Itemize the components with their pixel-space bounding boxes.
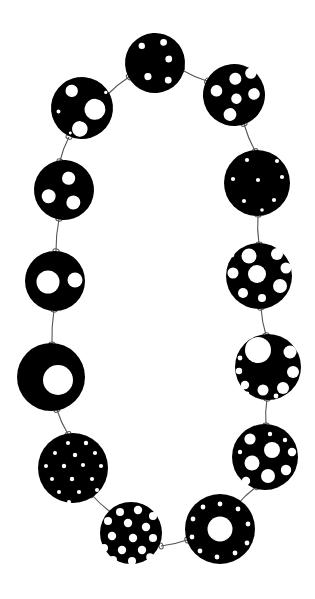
disc-hole bbox=[70, 477, 74, 481]
disc-hole bbox=[228, 268, 239, 279]
disc-hole bbox=[258, 385, 269, 396]
necklace-disc bbox=[226, 243, 292, 309]
disc-hole bbox=[116, 508, 124, 516]
disc-hole bbox=[231, 177, 235, 181]
disc-hole bbox=[218, 502, 223, 507]
disc-hole bbox=[242, 199, 246, 203]
disc-hole bbox=[146, 553, 154, 561]
disc-hole bbox=[57, 490, 61, 494]
disc-hole bbox=[43, 365, 73, 395]
disc-hole bbox=[124, 519, 132, 527]
disc-hole bbox=[62, 464, 66, 468]
disc-hole bbox=[201, 505, 206, 510]
necklace-disc bbox=[17, 343, 85, 411]
disc-hole bbox=[283, 438, 287, 442]
disc-hole bbox=[90, 477, 94, 481]
disc-hole bbox=[238, 450, 242, 454]
disc-hole bbox=[271, 248, 283, 260]
disc-hole bbox=[149, 534, 157, 542]
disc-hole bbox=[236, 368, 242, 374]
disc-hole bbox=[138, 546, 146, 554]
disc-hole bbox=[44, 464, 48, 468]
disc-hole bbox=[233, 551, 238, 556]
disc-hole bbox=[284, 346, 297, 359]
disc-hole bbox=[238, 356, 243, 361]
disc-hole bbox=[281, 263, 292, 274]
necklace-disc bbox=[224, 150, 290, 216]
disc-hole bbox=[260, 208, 264, 212]
disc-hole bbox=[245, 392, 250, 397]
disc-hole bbox=[274, 394, 279, 399]
disc-hole bbox=[53, 451, 57, 455]
disc-hole bbox=[236, 507, 241, 512]
disc-body bbox=[38, 433, 108, 503]
artboard bbox=[0, 0, 315, 599]
disc-hole bbox=[93, 451, 97, 455]
disc-hole bbox=[272, 198, 276, 202]
disc-hole bbox=[268, 432, 272, 436]
necklace-disc bbox=[25, 251, 85, 311]
disc-hole bbox=[242, 477, 250, 485]
disc-hole bbox=[109, 556, 117, 564]
necklace-illustration bbox=[0, 0, 315, 599]
disc-hole bbox=[67, 500, 71, 504]
disc-hole bbox=[66, 441, 70, 445]
disc-hole bbox=[245, 541, 250, 546]
disc-hole bbox=[286, 484, 290, 488]
disc-hole bbox=[142, 523, 150, 531]
disc-hole bbox=[241, 381, 249, 389]
disc-hole bbox=[149, 512, 157, 520]
necklace-disc bbox=[185, 494, 255, 564]
disc-hole bbox=[99, 464, 103, 468]
necklace-disc bbox=[232, 424, 298, 490]
necklace-disc bbox=[235, 334, 301, 400]
disc-hole bbox=[287, 294, 292, 299]
disc-hole bbox=[190, 535, 195, 540]
disc-hole bbox=[244, 433, 255, 444]
disc-hole bbox=[277, 382, 289, 394]
disc-hole bbox=[215, 555, 220, 560]
disc-hole bbox=[84, 441, 88, 445]
disc-hole bbox=[73, 453, 77, 457]
disc-hole bbox=[264, 442, 280, 458]
disc-hole bbox=[245, 456, 260, 471]
disc-hole bbox=[256, 178, 260, 182]
disc-hole bbox=[128, 557, 136, 565]
disc-hole bbox=[77, 490, 81, 494]
disc-hole bbox=[198, 549, 203, 554]
disc-hole bbox=[50, 477, 54, 481]
disc-hole bbox=[104, 517, 112, 525]
disc-hole bbox=[273, 279, 287, 293]
disc-hole bbox=[280, 175, 284, 179]
disc-body bbox=[224, 150, 290, 216]
disc-hole bbox=[261, 469, 275, 483]
disc-hole bbox=[245, 158, 249, 162]
disc-hole bbox=[120, 564, 127, 571]
disc-hole bbox=[134, 506, 142, 514]
disc-hole bbox=[238, 288, 248, 298]
disc-hole bbox=[129, 534, 137, 542]
disc-hole bbox=[68, 273, 83, 288]
disc-hole bbox=[230, 253, 235, 258]
disc-hole bbox=[281, 465, 291, 475]
disc-hole bbox=[288, 448, 296, 456]
disc-hole bbox=[100, 544, 108, 552]
disc-hole bbox=[118, 546, 126, 554]
disc-hole bbox=[287, 366, 299, 378]
disc-hole bbox=[242, 249, 257, 264]
disc-hole bbox=[246, 522, 251, 527]
disc-hole bbox=[37, 271, 60, 294]
disc-hole bbox=[191, 517, 196, 522]
disc-hole bbox=[275, 159, 279, 163]
disc-hole bbox=[258, 294, 266, 302]
disc-hole bbox=[208, 517, 233, 542]
disc-hole bbox=[245, 337, 271, 363]
disc-hole bbox=[81, 463, 85, 467]
disc-hole bbox=[108, 532, 116, 540]
disc-hole bbox=[95, 488, 99, 492]
disc-hole bbox=[248, 265, 266, 283]
